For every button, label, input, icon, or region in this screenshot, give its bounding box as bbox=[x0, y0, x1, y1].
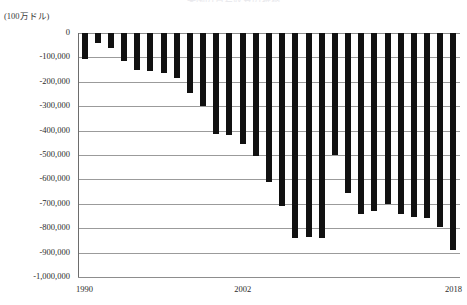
y-axis-tick-label: 0 bbox=[0, 27, 70, 37]
bar bbox=[371, 33, 377, 211]
bar bbox=[266, 33, 272, 182]
bar bbox=[332, 33, 338, 155]
bar bbox=[253, 33, 259, 156]
x-axis-tick-label: 1990 bbox=[76, 284, 93, 294]
y-axis-tick-label: -100,000 bbox=[0, 51, 70, 61]
bar bbox=[95, 33, 101, 43]
y-axis-tick-label: -300,000 bbox=[0, 100, 70, 110]
y-axis-tick-label: -600,000 bbox=[0, 173, 70, 183]
chart-figure: 米国の貿易収支の推移 (100万ドル) 0-100,000-200,000-30… bbox=[0, 0, 467, 305]
bar bbox=[134, 33, 140, 70]
bar bbox=[187, 33, 193, 93]
bar bbox=[108, 33, 114, 48]
bar bbox=[174, 33, 180, 78]
y-axis-tick-label: -900,000 bbox=[0, 247, 70, 257]
x-axis-tick-label: 2018 bbox=[445, 284, 462, 294]
y-axis-tick-label: -800,000 bbox=[0, 222, 70, 232]
bar bbox=[161, 33, 167, 73]
bar bbox=[345, 33, 351, 193]
y-axis-tick-label: -500,000 bbox=[0, 149, 70, 159]
y-axis-tick-label: -200,000 bbox=[0, 76, 70, 86]
bar bbox=[279, 33, 285, 206]
bar bbox=[226, 33, 232, 135]
y-axis-tick-label: -400,000 bbox=[0, 125, 70, 135]
chart-title: 米国の貿易収支の推移 bbox=[0, 0, 467, 2]
bar bbox=[450, 33, 456, 250]
bar bbox=[292, 33, 298, 238]
bar bbox=[319, 33, 325, 238]
y-axis-unit-label: (100万ドル) bbox=[4, 9, 49, 21]
bar bbox=[121, 33, 127, 61]
bar bbox=[424, 33, 430, 218]
bar bbox=[200, 33, 206, 106]
bar bbox=[147, 33, 153, 71]
bar bbox=[358, 33, 364, 214]
bar bbox=[306, 33, 312, 237]
bar bbox=[240, 33, 246, 144]
bar bbox=[411, 33, 417, 217]
y-axis-tick-label: -700,000 bbox=[0, 198, 70, 208]
bar bbox=[213, 33, 219, 134]
plot-area bbox=[78, 33, 460, 277]
bar bbox=[385, 33, 391, 204]
gridline bbox=[78, 277, 460, 278]
y-axis-tick-label: -1,000,000 bbox=[0, 271, 70, 281]
bar bbox=[82, 33, 88, 59]
x-axis-tick-label: 2002 bbox=[234, 284, 251, 294]
bar bbox=[437, 33, 443, 227]
bar bbox=[398, 33, 404, 214]
